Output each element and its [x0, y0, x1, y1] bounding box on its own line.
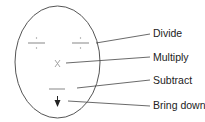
divide-sign-right-icon	[72, 37, 89, 48]
label-divide: Divide	[153, 27, 182, 39]
label-subtract: Subtract	[153, 74, 192, 86]
down-arrow-icon	[55, 96, 61, 107]
leader-line-divide	[96, 34, 150, 43]
label-multiply: Multiply	[153, 51, 189, 63]
multiply-sign-icon	[55, 60, 60, 67]
leader-line-subtract	[77, 80, 150, 88]
leader-line-multiply	[66, 57, 150, 63]
divide-sign-left-icon	[28, 37, 45, 48]
leader-line-bring-down	[68, 101, 150, 106]
label-bring-down: Bring down	[153, 99, 205, 111]
